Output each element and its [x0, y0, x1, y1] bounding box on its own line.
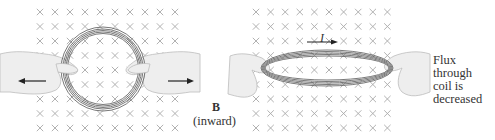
- flux-note: Flux through coil is decreased: [433, 54, 482, 106]
- field-cross-icon: [384, 23, 390, 29]
- right-hand-right-panel: [384, 52, 430, 96]
- field-cross-icon: [384, 38, 390, 44]
- field-cross-icon: [311, 67, 317, 73]
- field-cross-icon: [97, 67, 103, 73]
- field-cross-icon: [340, 125, 346, 131]
- field-cross-icon: [97, 81, 103, 87]
- field-cross-icon: [311, 23, 317, 29]
- field-cross-icon: [142, 38, 148, 44]
- field-cross-icon: [326, 9, 332, 15]
- field-cross-icon: [384, 52, 390, 58]
- field-cross-icon: [326, 125, 332, 131]
- field-cross-icon: [282, 9, 288, 15]
- field-cross-icon: [340, 38, 346, 44]
- field-cross-icon: [52, 38, 58, 44]
- field-cross-icon: [97, 38, 103, 44]
- field-cross-icon: [142, 110, 148, 116]
- field-cross-icon: [370, 110, 376, 116]
- magnetic-field-crosses-right: [253, 9, 391, 131]
- field-cross-icon: [311, 9, 317, 15]
- field-cross-icon: [112, 9, 118, 15]
- faraday-induction-figure: I B (inward) Flux through coil is decrea…: [0, 0, 495, 140]
- field-cross-icon: [97, 125, 103, 131]
- field-cross-icon: [355, 23, 361, 29]
- field-cross-icon: [37, 23, 43, 29]
- field-cross-icon: [311, 96, 317, 102]
- field-cross-icon: [112, 110, 118, 116]
- field-cross-icon: [67, 9, 73, 15]
- field-cross-icon: [142, 9, 148, 15]
- field-cross-icon: [311, 38, 317, 44]
- field-cross-icon: [52, 110, 58, 116]
- field-cross-icon: [157, 110, 163, 116]
- field-cross-icon: [297, 125, 303, 131]
- field-cross-icon: [37, 38, 43, 44]
- field-cross-icon: [355, 96, 361, 102]
- field-cross-icon: [127, 52, 133, 58]
- field-direction-label: (inward): [193, 115, 236, 128]
- field-cross-icon: [297, 110, 303, 116]
- field-cross-icon: [82, 67, 88, 73]
- field-cross-icon: [142, 96, 148, 102]
- field-cross-icon: [370, 38, 376, 44]
- field-cross-icon: [326, 96, 332, 102]
- field-cross-icon: [297, 9, 303, 15]
- field-cross-icon: [370, 96, 376, 102]
- field-cross-icon: [340, 96, 346, 102]
- field-cross-icon: [37, 9, 43, 15]
- field-cross-icon: [282, 38, 288, 44]
- field-cross-icon: [172, 38, 178, 44]
- field-cross-icon: [384, 125, 390, 131]
- field-cross-icon: [253, 23, 259, 29]
- field-symbol-label: B: [212, 101, 220, 113]
- field-cross-icon: [282, 110, 288, 116]
- field-cross-icon: [340, 67, 346, 73]
- field-cross-icon: [142, 23, 148, 29]
- field-cross-icon: [326, 23, 332, 29]
- field-cross-icon: [157, 23, 163, 29]
- field-cross-icon: [297, 96, 303, 102]
- field-cross-icon: [311, 125, 317, 131]
- field-cross-icon: [297, 23, 303, 29]
- field-cross-icon: [172, 96, 178, 102]
- field-cross-icon: [267, 96, 273, 102]
- field-cross-icon: [127, 125, 133, 131]
- field-cross-icon: [311, 110, 317, 116]
- field-cross-icon: [97, 96, 103, 102]
- field-cross-icon: [384, 110, 390, 116]
- field-cross-icon: [370, 9, 376, 15]
- field-cross-icon: [67, 96, 73, 102]
- field-cross-icon: [267, 38, 273, 44]
- field-cross-icon: [267, 110, 273, 116]
- field-cross-icon: [127, 81, 133, 87]
- field-cross-icon: [112, 52, 118, 58]
- field-cross-icon: [52, 23, 58, 29]
- field-cross-icon: [326, 110, 332, 116]
- field-cross-icon: [157, 38, 163, 44]
- field-cross-icon: [253, 38, 259, 44]
- field-cross-icon: [282, 67, 288, 73]
- field-cross-icon: [253, 9, 259, 15]
- field-cross-icon: [97, 9, 103, 15]
- field-cross-icon: [172, 9, 178, 15]
- field-cross-icon: [157, 96, 163, 102]
- field-cross-icon: [340, 110, 346, 116]
- current-label: I: [320, 32, 324, 44]
- field-cross-icon: [172, 23, 178, 29]
- field-cross-icon: [67, 110, 73, 116]
- diagram-canvas: [0, 0, 495, 140]
- field-cross-icon: [127, 23, 133, 29]
- field-cross-icon: [112, 67, 118, 73]
- field-cross-icon: [37, 110, 43, 116]
- field-cross-icon: [82, 23, 88, 29]
- field-cross-icon: [267, 125, 273, 131]
- field-cross-icon: [326, 67, 332, 73]
- field-cross-icon: [82, 125, 88, 131]
- field-cross-icon: [370, 67, 376, 73]
- field-cross-icon: [157, 9, 163, 15]
- field-cross-icon: [142, 125, 148, 131]
- field-cross-icon: [52, 9, 58, 15]
- field-cross-icon: [282, 96, 288, 102]
- field-cross-icon: [370, 23, 376, 29]
- field-cross-icon: [267, 9, 273, 15]
